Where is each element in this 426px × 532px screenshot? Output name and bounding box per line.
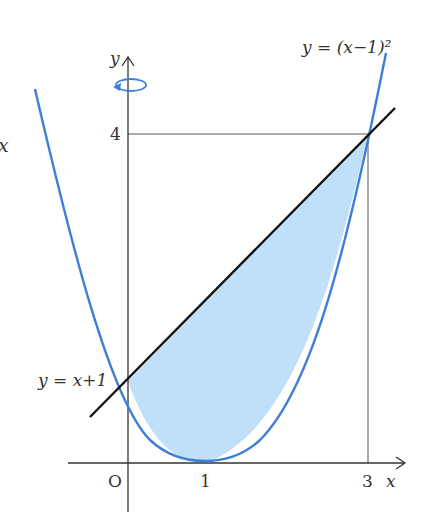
x-axis-label: x xyxy=(386,471,396,491)
partial-left-text: x xyxy=(0,134,9,156)
tick-y-4: 4 xyxy=(110,124,121,144)
line-label: y = x+1 xyxy=(37,370,107,390)
y-axis-label: y xyxy=(109,48,120,68)
diagram: y x O 1 3 4 y = x+1 y = (x−1)² x xyxy=(0,0,426,532)
shaded-region xyxy=(128,135,368,463)
tick-x-1: 1 xyxy=(200,471,211,491)
tick-x-3: 3 xyxy=(362,471,373,491)
origin-label: O xyxy=(108,471,122,491)
curve-label: y = (x−1)² xyxy=(301,37,392,57)
